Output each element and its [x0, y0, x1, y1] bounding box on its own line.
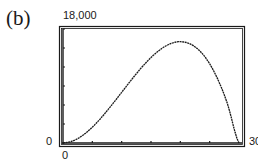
axis-ticks [63, 29, 210, 143]
axes [62, 29, 242, 144]
viewing-window-frame [60, 27, 245, 147]
data-curve [63, 42, 239, 143]
plot-area [0, 0, 258, 163]
